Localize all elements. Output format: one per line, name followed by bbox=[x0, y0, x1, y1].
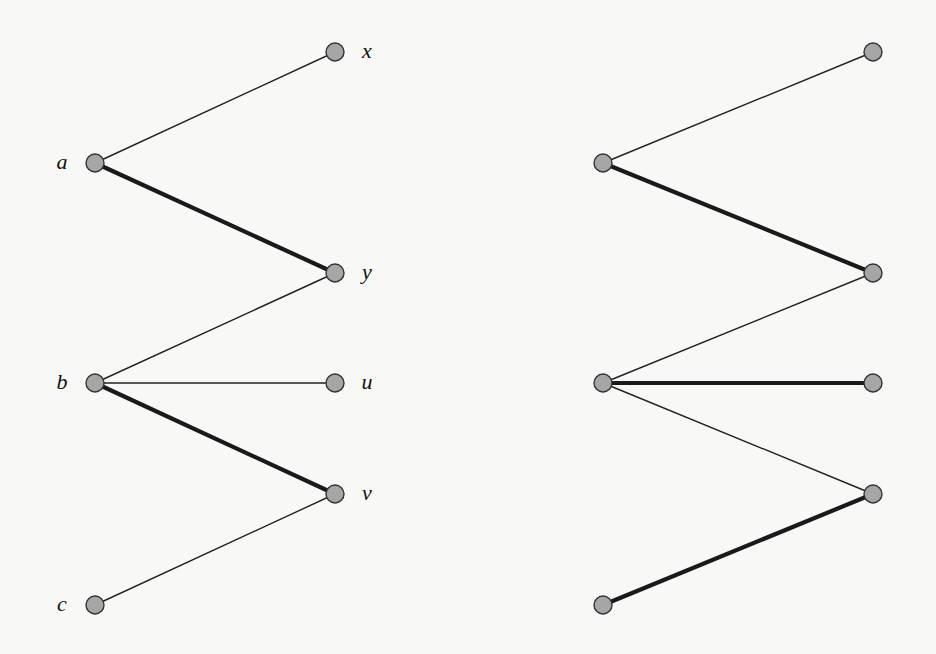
vertex-label-y: y bbox=[360, 259, 372, 284]
left-graph: abcxyuv bbox=[57, 38, 373, 616]
vertex-label-a: a bbox=[57, 149, 68, 174]
vertex-label-v: v bbox=[362, 480, 372, 505]
matched-edge-a-y bbox=[603, 163, 873, 273]
edge-a-x bbox=[603, 52, 873, 163]
edge-c-v bbox=[95, 494, 335, 605]
matched-edge-a-y bbox=[95, 163, 335, 273]
vertex-label-b: b bbox=[57, 369, 68, 394]
vertex-u bbox=[864, 374, 882, 392]
edge-b-y bbox=[95, 273, 335, 383]
vertex-x bbox=[326, 43, 344, 61]
left-graph-labels: abcxyuv bbox=[57, 38, 373, 616]
edge-b-v bbox=[603, 383, 873, 494]
vertex-a bbox=[86, 154, 104, 172]
edge-b-y bbox=[603, 273, 873, 383]
matched-edge-b-v bbox=[95, 383, 335, 494]
vertex-label-x: x bbox=[361, 38, 372, 63]
vertex-v bbox=[864, 485, 882, 503]
right-graph-edges bbox=[603, 52, 873, 605]
vertex-b bbox=[594, 374, 612, 392]
vertex-c bbox=[86, 596, 104, 614]
vertex-y bbox=[864, 264, 882, 282]
vertex-label-c: c bbox=[57, 591, 67, 616]
vertex-b bbox=[86, 374, 104, 392]
edge-a-x bbox=[95, 52, 335, 163]
vertex-v bbox=[326, 485, 344, 503]
right-graph bbox=[594, 43, 882, 614]
matched-edge-c-v bbox=[603, 494, 873, 605]
vertex-u bbox=[326, 374, 344, 392]
bipartite-matching-diagram: abcxyuv bbox=[0, 0, 936, 654]
left-graph-edges bbox=[95, 52, 335, 605]
vertex-y bbox=[326, 264, 344, 282]
vertex-label-u: u bbox=[362, 369, 373, 394]
vertex-a bbox=[594, 154, 612, 172]
vertex-c bbox=[594, 596, 612, 614]
vertex-x bbox=[864, 43, 882, 61]
